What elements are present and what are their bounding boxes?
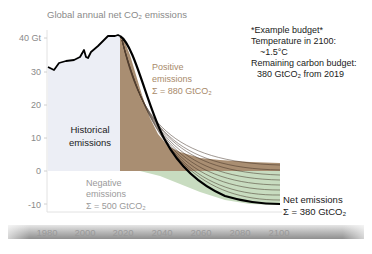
positive-emissions-label: Positive emissions Σ = 880 GtCO₂ bbox=[152, 62, 212, 96]
x-tick-2040: 2040 bbox=[151, 227, 172, 238]
x-tick-2020: 2020 bbox=[112, 227, 133, 238]
svg-text:Historical: Historical bbox=[70, 124, 109, 135]
svg-text:Temperature in 2100:: Temperature in 2100: bbox=[251, 36, 336, 46]
svg-text:~1.5°C: ~1.5°C bbox=[260, 47, 288, 57]
svg-text:380 GtCO₂ from 2019: 380 GtCO₂ from 2019 bbox=[257, 69, 344, 79]
budget-note: *Example budget* Temperature in 2100: ~1… bbox=[251, 25, 357, 79]
x-tick-2100: 2100 bbox=[268, 227, 289, 238]
svg-text:emissions: emissions bbox=[69, 137, 111, 148]
chart-title: Global annual net CO₂ emissions bbox=[47, 9, 187, 20]
y-tick-0: 0 bbox=[36, 166, 41, 176]
y-tick-10: 10 bbox=[31, 133, 41, 143]
x-tick-1980: 1980 bbox=[36, 227, 57, 238]
svg-text:Remaining carbon budget:: Remaining carbon budget: bbox=[251, 58, 357, 68]
y-tick-labels: 40 Gt 30 20 10 0 -10 bbox=[19, 33, 42, 210]
svg-text:emissions: emissions bbox=[152, 74, 193, 84]
y-tick-40: 40 Gt bbox=[19, 33, 42, 43]
negative-emissions-label: Negative emissions Σ = 500 GtCO₂ bbox=[86, 178, 146, 211]
svg-text:Σ = 500 GtCO₂: Σ = 500 GtCO₂ bbox=[86, 201, 146, 211]
svg-text:Negative: Negative bbox=[86, 178, 122, 188]
x-tick-2000: 2000 bbox=[74, 227, 95, 238]
emissions-chart: Global annual net CO₂ emissions 40 Gt 30… bbox=[0, 0, 372, 254]
x-tick-2080: 2080 bbox=[229, 227, 250, 238]
svg-text:Positive: Positive bbox=[152, 62, 184, 72]
y-tick-20: 20 bbox=[31, 100, 41, 110]
svg-text:Net emissions: Net emissions bbox=[283, 194, 343, 205]
x-tick-2060: 2060 bbox=[190, 227, 211, 238]
svg-text:emissions: emissions bbox=[86, 189, 127, 199]
historical-area bbox=[48, 35, 120, 171]
svg-text:Σ = 880 GtCO₂: Σ = 880 GtCO₂ bbox=[152, 86, 212, 96]
net-emissions-label: Net emissions Σ = 380 GtCO₂ bbox=[283, 194, 346, 217]
svg-text:*Example budget*: *Example budget* bbox=[251, 25, 324, 35]
svg-text:Σ = 380 GtCO₂: Σ = 380 GtCO₂ bbox=[283, 206, 346, 217]
y-tick-30: 30 bbox=[31, 67, 41, 77]
y-tick-neg10: -10 bbox=[28, 200, 41, 210]
